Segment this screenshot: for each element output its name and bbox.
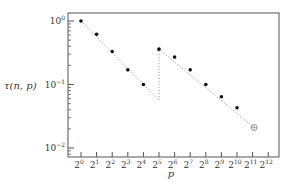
x-tick-label: 212 [260, 158, 274, 170]
y-axis-ticks: 10010−110−2 [45, 14, 74, 154]
y-tick-label: 10−2 [45, 141, 65, 153]
trend-line-segment-1 [81, 21, 159, 100]
x-tick-label: 211 [244, 158, 257, 170]
data-point [79, 19, 83, 23]
x-tick-label: 25 [152, 158, 162, 170]
x-tick-label: 24 [137, 158, 147, 170]
x-tick-label: 27 [183, 158, 193, 170]
data-point [95, 32, 99, 36]
x-tick-label: 29 [215, 158, 225, 170]
x-tick-label: 22 [105, 158, 115, 170]
data-points [79, 19, 257, 130]
y-tick-label: 100 [50, 14, 65, 26]
dotted-trend-lines [81, 21, 254, 128]
data-point [110, 50, 114, 54]
data-point [157, 47, 161, 51]
x-tick-label: 28 [199, 158, 209, 170]
data-point [220, 95, 224, 99]
trend-line-segment-2 [159, 49, 254, 127]
axes-box [68, 13, 279, 157]
x-axis-label: p [168, 168, 175, 179]
y-tick-label: 10−1 [45, 78, 65, 90]
data-point [188, 68, 192, 72]
y-axis-label: τ(n, p) [4, 80, 37, 91]
data-point [204, 83, 208, 87]
x-tick-label: 20 [74, 158, 84, 170]
chart-canvas: 10010−110−2 2021222324252627282921021121… [0, 0, 292, 186]
plot-frame [68, 13, 279, 157]
x-tick-label: 210 [228, 158, 242, 170]
x-tick-label: 23 [121, 158, 131, 170]
data-point [142, 83, 146, 87]
x-tick-label: 21 [90, 158, 100, 170]
data-point [173, 55, 177, 59]
data-point [126, 68, 130, 72]
data-point [235, 106, 239, 110]
